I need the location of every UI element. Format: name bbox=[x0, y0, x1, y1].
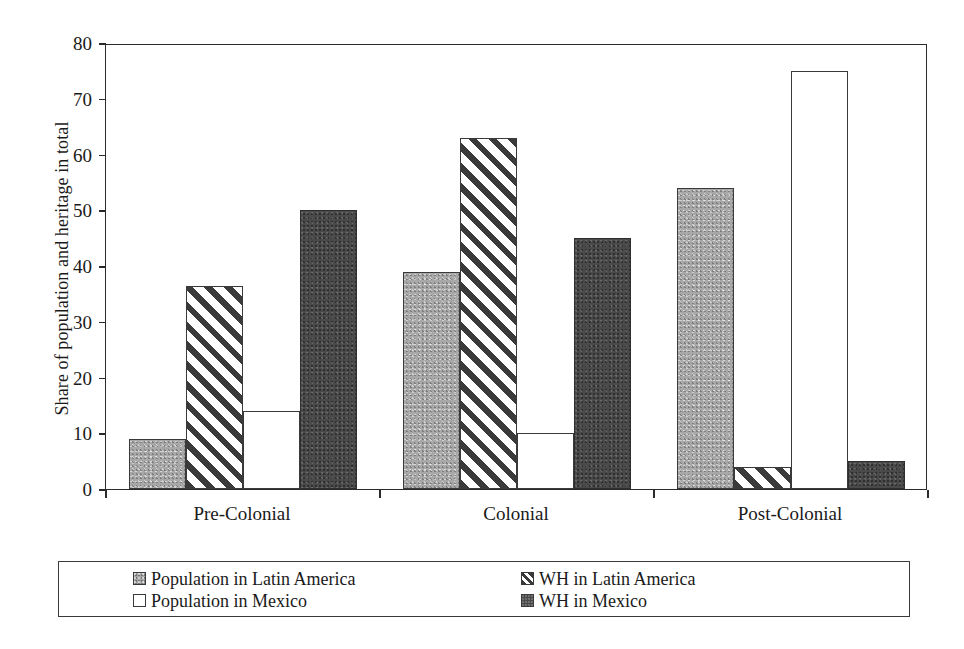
legend-swatch-pop-la-icon bbox=[133, 572, 146, 585]
bar-pop-la-post-colonial bbox=[677, 188, 734, 489]
bar-pop-la-colonial bbox=[403, 272, 460, 489]
legend-label: Population in Latin America bbox=[151, 569, 355, 589]
y-tick-label: 20 bbox=[38, 366, 92, 392]
legend-column-right: WH in Latin AmericaWH in Mexico bbox=[521, 568, 695, 612]
bar-wh-mx-post-colonial bbox=[848, 461, 905, 489]
legend-swatch-wh-mx-icon bbox=[521, 594, 534, 607]
legend-entry-wh-la[interactable]: WH in Latin America bbox=[521, 568, 695, 589]
legend-entry-pop-mx[interactable]: Population in Mexico bbox=[133, 590, 355, 611]
legend-label: WH in Mexico bbox=[539, 591, 647, 611]
bar-wh-la-colonial bbox=[460, 138, 517, 489]
x-axis-label-colonial: Colonial bbox=[401, 503, 631, 525]
bar-wh-mx-colonial bbox=[574, 238, 631, 489]
legend-column-left: Population in Latin AmericaPopulation in… bbox=[133, 568, 355, 612]
legend-label: Population in Mexico bbox=[151, 591, 307, 611]
legend-swatch-wh-la-icon bbox=[521, 572, 534, 585]
x-axis-label-pre-colonial: Pre-Colonial bbox=[127, 503, 357, 525]
y-tick-label: 10 bbox=[38, 421, 92, 447]
x-axis-label-post-colonial: Post-Colonial bbox=[675, 503, 905, 525]
plot-area bbox=[105, 44, 927, 490]
legend-entry-wh-mx[interactable]: WH in Mexico bbox=[521, 590, 695, 611]
y-tick-label: 50 bbox=[38, 198, 92, 224]
bar-pop-mx-pre-colonial bbox=[243, 411, 300, 489]
bar-pop-mx-post-colonial bbox=[791, 71, 848, 489]
legend-entry-pop-la[interactable]: Population in Latin America bbox=[133, 568, 355, 589]
bar-wh-mx-pre-colonial bbox=[300, 210, 357, 489]
y-tick-label: 70 bbox=[38, 87, 92, 113]
legend-swatch-pop-mx-icon bbox=[133, 594, 146, 607]
y-tick-label: 0 bbox=[38, 477, 92, 503]
bar-wh-la-pre-colonial bbox=[186, 286, 243, 489]
y-tick-label: 40 bbox=[38, 254, 92, 280]
x-axis-tick-mark bbox=[379, 490, 381, 498]
x-axis-tick-mark bbox=[653, 490, 655, 498]
bar-chart-figure: Share of population and heritage in tota… bbox=[0, 0, 964, 649]
y-tick-label: 60 bbox=[38, 143, 92, 169]
x-axis-tick-mark bbox=[927, 490, 929, 498]
chart-legend: Population in Latin AmericaPopulation in… bbox=[58, 561, 910, 617]
x-axis-tick-mark bbox=[105, 490, 107, 498]
bar-wh-la-post-colonial bbox=[734, 467, 791, 489]
bar-pop-mx-colonial bbox=[517, 433, 574, 489]
y-tick-label: 80 bbox=[38, 31, 92, 57]
legend-label: WH in Latin America bbox=[539, 569, 695, 589]
y-tick-label: 30 bbox=[38, 310, 92, 336]
bar-pop-la-pre-colonial bbox=[129, 439, 186, 489]
